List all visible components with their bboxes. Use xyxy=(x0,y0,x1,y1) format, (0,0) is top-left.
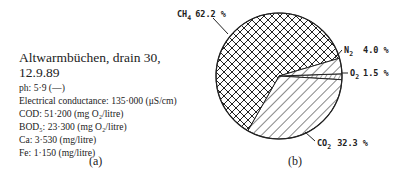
ch4-leader-line xyxy=(213,18,228,34)
label-n2: N24.0 % xyxy=(344,45,390,58)
label-ch4: CH462.2 % xyxy=(177,9,227,22)
label-o2: O21.5 % xyxy=(350,68,390,81)
co2-leader-line xyxy=(305,132,315,141)
gas-composition-pie-chart: CH462.2 % N24.0 % O21.5 % CO232.3 % xyxy=(0,0,413,183)
label-co2: CO232.3 % xyxy=(317,138,369,151)
pie-slices xyxy=(216,13,342,139)
caption-b: (b) xyxy=(288,154,302,169)
